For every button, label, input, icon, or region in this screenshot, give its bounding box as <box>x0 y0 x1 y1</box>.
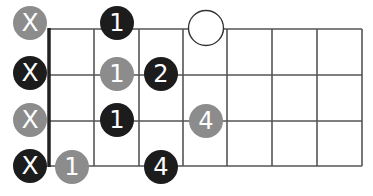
marker-label: 1 <box>109 9 124 37</box>
finger-marker: 1 <box>100 57 134 91</box>
markers: XXXX1121414 <box>13 6 224 184</box>
fretboard-diagram: XXXX1121414 <box>0 0 373 196</box>
finger-marker: 1 <box>100 6 134 40</box>
marker-label: X <box>21 151 38 180</box>
finger-marker: 4 <box>189 104 223 138</box>
muted-string-marker: X <box>13 6 47 40</box>
marker-label: X <box>21 58 38 87</box>
marker-label: 2 <box>153 60 168 88</box>
open-circle-icon <box>189 11 224 46</box>
marker-label: X <box>21 105 38 134</box>
marker-label: 1 <box>109 106 124 134</box>
finger-marker: 2 <box>144 57 178 91</box>
marker-label: 4 <box>198 107 213 135</box>
muted-string-marker: X <box>13 56 47 90</box>
marker-label: 4 <box>153 153 168 181</box>
finger-marker: 1 <box>100 103 134 137</box>
strings <box>49 29 362 166</box>
open-circle-marker <box>189 11 224 46</box>
marker-label: X <box>21 8 38 37</box>
marker-label: 1 <box>109 60 124 88</box>
marker-label: 1 <box>64 153 79 181</box>
muted-string-marker: X <box>13 149 47 183</box>
finger-marker: 4 <box>144 150 178 184</box>
finger-marker: 1 <box>55 150 89 184</box>
frets <box>94 29 362 166</box>
muted-string-marker: X <box>13 103 47 137</box>
